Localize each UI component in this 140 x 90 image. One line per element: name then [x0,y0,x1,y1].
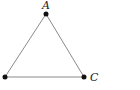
vertex-A-label: A [41,0,50,12]
edge-AC [46,14,84,77]
edge-AB [5,14,46,77]
triangle-diagram: A C [0,0,140,90]
vertex-A-point [44,12,49,17]
vertex-C-label: C [90,71,99,84]
vertex-C-point [82,75,87,80]
vertex-B-point [3,75,8,80]
